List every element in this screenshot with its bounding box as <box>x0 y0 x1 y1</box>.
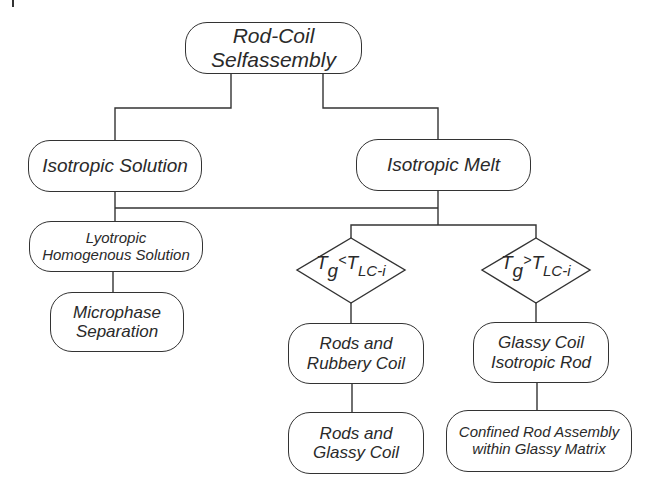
node-label-line1: Confined Rod Assembly <box>459 424 619 441</box>
node-confined-rod-assembly: Confined Rod Assembly within Glassy Matr… <box>446 410 632 472</box>
cond-sub-lc: LC-i <box>358 262 386 279</box>
node-label-line2: Homogenous Solution <box>42 247 190 264</box>
cond-sub-lc: LC-i <box>543 262 571 279</box>
node-rods-rubbery-coil: Rods and Rubbery Coil <box>288 323 424 384</box>
condition-tg-less-than-tlci: Tg<TLC-i <box>316 252 386 274</box>
node-label-line2: Selfassembly <box>211 48 336 72</box>
node-label-line1: Microphase <box>73 303 161 322</box>
node-label-line1: Lyotropic <box>86 230 147 247</box>
cond-t: T <box>501 252 513 273</box>
cond-t: T <box>316 252 328 273</box>
node-label-line2: Glassy Coil <box>313 443 399 462</box>
node-label: Isotropic Melt <box>387 154 500 175</box>
node-isotropic-melt: Isotropic Melt <box>356 139 531 191</box>
cond-operator: > <box>523 252 531 268</box>
node-label: Isotropic Solution <box>42 155 188 176</box>
condition-tg-greater-than-tlci: Tg>TLC-i <box>501 252 571 274</box>
cond-t2: T <box>346 252 358 273</box>
node-label-line1: Rod-Coil <box>233 24 315 48</box>
node-label-line1: Glassy Coil <box>498 333 584 352</box>
node-label-line2: Rubbery Coil <box>307 354 405 373</box>
node-label-line2: Isotropic Rod <box>491 353 591 372</box>
node-rods-glassy-coil: Rods and Glassy Coil <box>288 412 424 474</box>
node-label-line2: within Glassy Matrix <box>472 441 605 458</box>
node-label-line2: Separation <box>76 322 158 341</box>
cond-operator: < <box>338 252 346 268</box>
node-label-line1: Rods and <box>320 334 393 353</box>
cond-sub-g: g <box>328 260 339 281</box>
node-lyotropic-homogenous-solution: Lyotropic Homogenous Solution <box>29 221 203 272</box>
node-label-line1: Rods and <box>320 424 393 443</box>
node-microphase-separation: Microphase Separation <box>50 292 184 352</box>
node-rod-coil-selfassembly: Rod-Coil Selfassembly <box>185 22 362 74</box>
node-glassy-coil-isotropic-rod: Glassy Coil Isotropic Rod <box>473 322 609 383</box>
node-isotropic-solution: Isotropic Solution <box>28 140 202 192</box>
cond-t2: T <box>531 252 543 273</box>
cond-sub-g: g <box>513 260 524 281</box>
